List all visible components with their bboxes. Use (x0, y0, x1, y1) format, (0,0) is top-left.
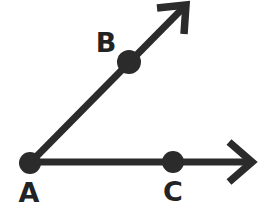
figure-background (0, 0, 266, 224)
angle-diagram-figure: A B C (0, 0, 266, 224)
angle-diagram-svg: A B C (0, 0, 266, 224)
point-a-label: A (19, 177, 40, 208)
point-b-dot (117, 50, 141, 74)
point-a (19, 152, 41, 174)
point-a-dot (19, 152, 41, 174)
point-b (117, 50, 141, 74)
point-c (162, 151, 184, 173)
point-c-dot (162, 151, 184, 173)
point-c-label: C (163, 176, 183, 207)
point-b-label: B (96, 27, 117, 58)
